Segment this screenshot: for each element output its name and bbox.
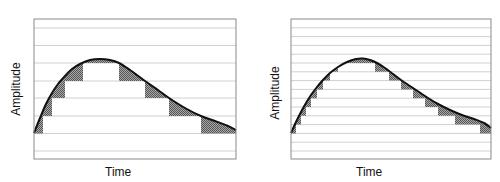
y-axis-label: Amplitude [268, 66, 282, 119]
x-axis-label: Time [105, 165, 131, 179]
x-axis-label: Time [356, 165, 382, 179]
fine-quantization-plot [250, 0, 500, 182]
y-axis-label: Amplitude [9, 62, 23, 115]
fine-quantization-panel: Amplitude Time [250, 0, 500, 182]
coarse-quantization-panel: Amplitude Time [0, 0, 250, 182]
coarse-quantization-plot [0, 0, 250, 182]
